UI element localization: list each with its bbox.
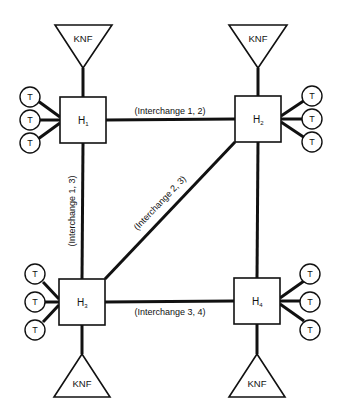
interchange-links [82,119,258,302]
svg-text:KNF: KNF [73,378,92,389]
svg-text:T: T [309,114,315,124]
link-interchange-1-2 [106,119,235,120]
label-interchange-3-4: (Interchange 3, 4) [134,307,205,317]
svg-text:T: T [309,137,315,147]
svg-text:T: T [307,297,313,307]
link-interchange-1-3 [82,143,83,279]
knf-triangle-icon [54,354,110,397]
svg-text:T: T [307,325,313,335]
svg-text:T: T [27,92,33,102]
knf-triangle-icon [55,25,112,68]
label-interchange-1-3: (Interchange 1, 3) [67,175,77,246]
label-interchange-1-2: (Interchange 1, 2) [134,106,205,116]
svg-text:T: T [32,269,38,279]
knf-H1: KNF [55,25,112,68]
svg-text:T: T [32,325,38,335]
svg-text:T: T [309,91,315,101]
link-interchange-2-3 [105,142,235,279]
knf-triangle-icon [229,354,285,397]
svg-text:T: T [27,138,33,148]
hub-H2: H2 [235,96,281,142]
network-diagram: H1 H2 H3 H4 KNF KNF KNF KNF T T T [0,0,339,420]
svg-text:KNF: KNF [248,378,267,389]
hub-H3: H3 [59,279,105,325]
knf-H3: KNF [54,354,110,397]
svg-text:T: T [307,269,313,279]
link-interchange-3-4 [105,301,234,302]
svg-text:KNF: KNF [74,33,93,44]
svg-text:T: T [27,115,33,125]
svg-text:T: T [32,297,38,307]
svg-text:KNF: KNF [249,33,268,44]
knf-H4: KNF [229,354,285,397]
hub-H4: H4 [234,278,280,324]
knf-H2: KNF [229,25,287,68]
link-h2-h4 [257,142,258,278]
knf-triangle-icon [229,25,287,68]
hub-H1: H1 [60,97,106,143]
